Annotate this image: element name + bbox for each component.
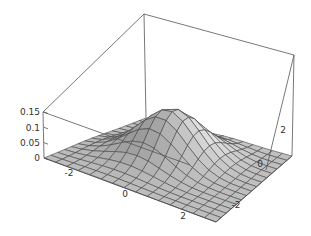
y-tick-label: 0: [257, 159, 263, 169]
x-tick-label: 0: [122, 189, 128, 199]
x-tick-label: 2: [180, 211, 186, 221]
y-tick-label: 2: [280, 125, 286, 135]
z-tick-label: 0.05: [20, 138, 40, 148]
surface-mesh: [44, 109, 292, 222]
z-tick-label: 0.15: [20, 107, 40, 117]
surface-plot: 0 0.05 0.1 0.15 -2 0 2 -2 0 2: [0, 0, 311, 236]
y-tick-label: -2: [232, 200, 241, 210]
x-tick-label: -2: [65, 168, 74, 178]
z-tick-label: 0.1: [26, 123, 40, 133]
z-tick-label: 0: [34, 153, 40, 163]
z-axis-ticks: 0 0.05 0.1 0.15: [20, 107, 40, 163]
